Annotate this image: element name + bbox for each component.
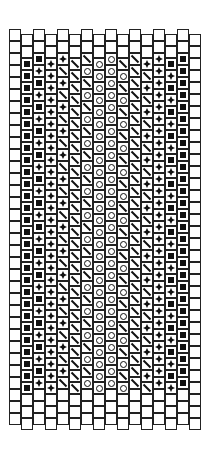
bead-cell bbox=[153, 401, 165, 413]
bead-cell bbox=[57, 53, 69, 65]
circle-icon bbox=[106, 342, 116, 352]
circle-icon bbox=[94, 227, 104, 237]
bead-cell bbox=[177, 185, 189, 197]
bead-cell bbox=[177, 173, 189, 185]
bead-cell bbox=[69, 190, 81, 202]
bead-cell bbox=[81, 317, 93, 329]
bead-cell bbox=[9, 149, 21, 161]
bead-cell bbox=[129, 245, 141, 257]
bead-cell bbox=[45, 154, 57, 166]
bead-cell bbox=[129, 221, 141, 233]
filled-square-icon bbox=[166, 131, 176, 141]
bead-cell bbox=[117, 70, 129, 82]
bead-cell bbox=[45, 286, 57, 298]
bead-cell bbox=[153, 41, 165, 53]
circle-icon bbox=[82, 306, 92, 316]
diagonal-slash-icon bbox=[58, 306, 68, 316]
bead-cell bbox=[57, 365, 69, 377]
bead-cell bbox=[141, 394, 153, 406]
bead-cell bbox=[117, 334, 129, 346]
diagonal-slash-icon bbox=[70, 335, 80, 345]
bead-cell bbox=[129, 89, 141, 101]
bead-cell bbox=[69, 166, 81, 178]
diamond-star-icon bbox=[34, 330, 44, 340]
diamond-star-icon bbox=[46, 383, 56, 393]
diamond-star-icon bbox=[166, 167, 176, 177]
bead-cell bbox=[69, 226, 81, 238]
diamond-star-icon bbox=[34, 66, 44, 76]
diagonal-slash-icon bbox=[58, 282, 68, 292]
diagonal-slash-icon bbox=[142, 359, 152, 369]
circle-icon bbox=[94, 239, 104, 249]
bead-cell bbox=[153, 29, 165, 41]
bead-cell bbox=[105, 29, 117, 41]
circle-icon bbox=[118, 143, 128, 153]
bead-cell bbox=[57, 41, 69, 53]
filled-square-icon bbox=[166, 371, 176, 381]
bead-cell bbox=[69, 46, 81, 58]
bead-cell bbox=[165, 82, 177, 94]
bead-cell bbox=[33, 233, 45, 245]
diamond-star-icon bbox=[34, 258, 44, 268]
bead-cell bbox=[129, 113, 141, 125]
diagonal-slash-icon bbox=[70, 383, 80, 393]
bead-cell bbox=[129, 101, 141, 113]
bead-cell bbox=[105, 233, 117, 245]
bead-cell bbox=[177, 341, 189, 353]
bead-cell bbox=[105, 317, 117, 329]
diamond-star-icon bbox=[166, 383, 176, 393]
bead-cell bbox=[57, 137, 69, 149]
bead-cell bbox=[117, 418, 129, 430]
bead-cell bbox=[21, 178, 33, 190]
filled-square-icon bbox=[22, 371, 32, 381]
bead-cell bbox=[81, 185, 93, 197]
bead-cell bbox=[129, 197, 141, 209]
bead-cell bbox=[33, 269, 45, 281]
diagonal-slash-icon bbox=[142, 71, 152, 81]
bead-cell bbox=[129, 281, 141, 293]
bead-cell bbox=[153, 65, 165, 77]
diamond-star-icon bbox=[34, 90, 44, 100]
bead-cell bbox=[9, 29, 21, 41]
bead-cell bbox=[165, 418, 177, 430]
bead-cell bbox=[21, 106, 33, 118]
bead-cell bbox=[69, 286, 81, 298]
diagonal-slash-icon bbox=[70, 299, 80, 309]
bead-cell bbox=[129, 329, 141, 341]
bead-cell bbox=[69, 34, 81, 46]
bead-cell bbox=[33, 185, 45, 197]
filled-square-icon bbox=[178, 126, 188, 136]
filled-square-icon bbox=[22, 59, 32, 69]
bead-cell bbox=[45, 358, 57, 370]
bead-cell bbox=[9, 113, 21, 125]
bead-cell bbox=[189, 46, 201, 58]
diagonal-slash-icon bbox=[130, 186, 140, 196]
diamond-star-icon bbox=[46, 323, 56, 333]
bead-cell bbox=[141, 142, 153, 154]
bead-cell bbox=[165, 46, 177, 58]
circle-icon bbox=[106, 186, 116, 196]
diamond-star-icon bbox=[166, 95, 176, 105]
bead-cell bbox=[69, 238, 81, 250]
diamond-star-icon bbox=[46, 371, 56, 381]
diamond-star-icon bbox=[34, 306, 44, 316]
bead-cell bbox=[57, 77, 69, 89]
bead-cell bbox=[141, 310, 153, 322]
bead-cell bbox=[21, 238, 33, 250]
diagonal-slash-icon bbox=[70, 119, 80, 129]
bead-cell bbox=[177, 113, 189, 125]
diamond-star-icon bbox=[46, 239, 56, 249]
bead-cell bbox=[177, 29, 189, 41]
bead-cell bbox=[153, 377, 165, 389]
bead-cell bbox=[33, 41, 45, 53]
bead-cell bbox=[141, 94, 153, 106]
diamond-star-icon bbox=[58, 222, 68, 232]
bead-cell bbox=[189, 322, 201, 334]
bead-cell bbox=[33, 53, 45, 65]
diagonal-slash-icon bbox=[118, 299, 128, 309]
bead-cell bbox=[57, 233, 69, 245]
diamond-star-icon bbox=[166, 143, 176, 153]
bead-cell bbox=[21, 322, 33, 334]
bead-cell bbox=[9, 161, 21, 173]
diagonal-slash-icon bbox=[70, 167, 80, 177]
